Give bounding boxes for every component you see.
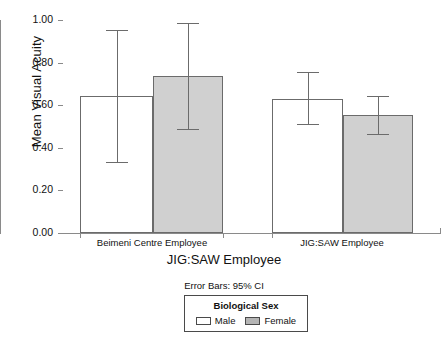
bar-chart: Mean Visual Acuity 1.00 0.80 0.60 0.40 0… — [0, 0, 448, 346]
y-tick-0.40: 0.40 — [58, 148, 63, 149]
plot-area: 1.00 0.80 0.60 0.40 0.20 0.00 — [63, 20, 448, 233]
error-bar-cap-upper — [297, 72, 319, 73]
x-tick-right — [440, 228, 441, 233]
legend-item-female[interactable]: Female — [245, 315, 296, 326]
legend-label-male: Male — [215, 315, 236, 326]
legend-swatch-female-icon — [245, 317, 260, 325]
legend: Biological Sex Male Female — [184, 295, 308, 332]
y-tick-label-0.80: 0.80 — [33, 56, 53, 68]
legend-label-female: Female — [264, 315, 296, 326]
y-tick-label-1.00: 1.00 — [33, 13, 53, 25]
y-tick-0.20: 0.20 — [58, 190, 63, 191]
y-tick-0.80: 0.80 — [58, 63, 63, 64]
x-category-label-jigsaw: JIG:SAW Employee — [262, 237, 422, 248]
x-axis-line — [63, 233, 441, 234]
y-tick-label-0.00: 0.00 — [33, 226, 53, 238]
error-bars-note: Error Bars: 95% CI — [0, 280, 448, 291]
y-tick-label-0.60: 0.60 — [33, 98, 53, 110]
legend-items: Male Female — [191, 315, 301, 326]
error-bar-cap-lower — [367, 134, 389, 135]
error-bar-stem — [117, 30, 118, 162]
error-bar-cap-lower — [106, 162, 128, 163]
error-bar-cap-lower — [177, 129, 199, 130]
x-category-label-beimeni: Beimeni Centre Employee — [52, 237, 252, 248]
error-bar-stem — [378, 96, 379, 133]
legend-title: Biological Sex — [191, 300, 301, 311]
legend-item-male[interactable]: Male — [196, 315, 236, 326]
error-bar-stem — [188, 23, 189, 129]
y-axis-line — [0, 20, 1, 234]
y-tick-label-0.40: 0.40 — [33, 141, 53, 153]
error-bar-cap-upper — [177, 23, 199, 24]
x-axis-title: JIG:SAW Employee — [0, 252, 448, 267]
y-tick-0.00: 0.00 — [58, 233, 63, 234]
error-bar-cap-upper — [106, 30, 128, 31]
error-bar-cap-upper — [367, 96, 389, 97]
legend-swatch-male-icon — [196, 317, 211, 325]
y-tick-0.60: 0.60 — [58, 105, 63, 106]
y-tick-label-0.20: 0.20 — [33, 183, 53, 195]
error-bar-stem — [308, 72, 309, 124]
y-tick-1.00: 1.00 — [58, 20, 63, 21]
error-bar-cap-lower — [297, 124, 319, 125]
